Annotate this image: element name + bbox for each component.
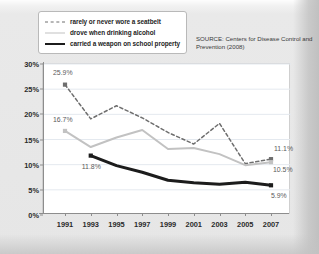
x-axis-tick-label: 2005 [237, 220, 253, 229]
x-axis-tick-mark [117, 213, 118, 216]
y-axis-tick-label: 5% [28, 185, 39, 194]
y-axis-tick-mark [40, 189, 43, 190]
chart-screenshot: rarely or never wore a seatbelt drove wh… [0, 0, 319, 254]
x-axis-tick-label: 1995 [108, 220, 124, 229]
legend-swatch-solid-gray-icon [44, 28, 66, 38]
data-value-annotation: 10.5% [273, 166, 293, 173]
y-axis-tick-mark [40, 139, 43, 140]
y-axis-tick-label: 30% [24, 60, 39, 69]
x-axis-tick-mark [142, 213, 143, 216]
data-point-marker [269, 183, 273, 187]
legend-item-seatbelt: rarely or never wore a seatbelt [44, 16, 181, 27]
x-axis-tick-label: 2001 [186, 220, 202, 229]
data-point-marker [63, 129, 67, 133]
x-axis-tick-label: 2007 [263, 220, 279, 229]
y-axis-tick-mark [40, 114, 43, 115]
source-note: SOURCE: Centers for Disease Control and … [196, 35, 314, 51]
x-axis-tick-mark [271, 213, 272, 216]
data-value-annotation: 16.7% [53, 116, 73, 123]
legend-swatch-dashed-icon [44, 17, 66, 27]
y-axis-tick-mark [40, 164, 43, 165]
x-axis-tick-label: 2003 [211, 220, 227, 229]
data-value-annotation: 11.1% [274, 145, 293, 152]
y-axis-tick-label: 20% [24, 110, 39, 119]
x-axis-tick-mark [65, 213, 66, 216]
plot-svg [43, 64, 291, 215]
series-line-0 [65, 85, 271, 164]
x-axis-tick-mark [220, 213, 221, 216]
legend-swatch-solid-black-icon [44, 39, 66, 49]
x-axis-tick-label: 1991 [57, 220, 73, 229]
y-axis-tick-label: 0% [28, 211, 39, 220]
y-axis-tick-label: 15% [24, 135, 39, 144]
data-value-annotation: 5.9% [271, 192, 287, 199]
legend-item-weapon: carried a weapon on school property [44, 38, 181, 49]
legend-item-alcohol: drove when drinking alcohol [44, 27, 181, 38]
data-point-marker [63, 83, 67, 87]
plot-area: 0%5%10%15%20%25%30%199119931995199719992… [42, 63, 290, 214]
legend-label-weapon: carried a weapon on school property [70, 39, 180, 48]
y-axis-tick-mark [40, 64, 43, 65]
y-axis-tick-label: 10% [24, 160, 39, 169]
x-axis-tick-mark [245, 213, 246, 216]
series-line-2 [91, 156, 271, 186]
x-axis-tick-mark [194, 213, 195, 216]
x-axis-line [39, 213, 289, 214]
data-point-marker [269, 160, 273, 164]
data-point-marker [89, 154, 93, 158]
data-value-annotation: 11.8% [82, 163, 101, 170]
x-axis-tick-label: 1999 [160, 220, 176, 229]
background-bottom-shade [0, 234, 319, 254]
y-axis-tick-mark [40, 215, 43, 216]
legend-label-seatbelt: rarely or never wore a seatbelt [70, 17, 161, 26]
x-axis-tick-label: 1993 [83, 220, 99, 229]
y-axis-line [43, 62, 44, 213]
legend-label-alcohol: drove when drinking alcohol [70, 28, 155, 37]
x-axis-tick-mark [168, 213, 169, 216]
series-line-1 [65, 130, 271, 165]
data-value-annotation: 25.9% [53, 69, 73, 76]
y-axis-tick-mark [40, 89, 43, 90]
y-axis-tick-label: 25% [24, 85, 39, 94]
x-axis-tick-label: 1997 [134, 220, 150, 229]
chart-legend: rarely or never wore a seatbelt drove wh… [38, 11, 187, 54]
x-axis-tick-mark [91, 213, 92, 216]
